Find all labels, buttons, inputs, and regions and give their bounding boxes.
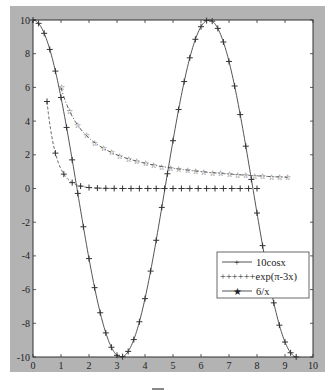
star-marker-icon: ☆ — [74, 121, 81, 130]
chart-svg: ☆☆☆☆☆☆☆☆☆☆☆☆☆☆☆☆☆☆☆☆☆☆☆☆☆☆☆☆ 01234567891… — [0, 0, 333, 390]
star-marker-icon: ☆ — [100, 144, 107, 153]
legend-plus-marker-icon: + — [234, 257, 240, 268]
x-tick-label: 5 — [171, 360, 176, 371]
x-tick-label: 9 — [283, 360, 288, 371]
star-marker-icon: ☆ — [125, 155, 132, 164]
legend-star-marker-icon: ★ — [233, 286, 242, 297]
star-marker-icon: ☆ — [158, 163, 165, 172]
x-tick-label: 2 — [87, 360, 92, 371]
star-marker-icon: ☆ — [251, 172, 258, 181]
y-tick-label: -2 — [22, 217, 30, 228]
star-marker-icon: ☆ — [242, 171, 249, 180]
star-marker-icon: ☆ — [167, 164, 174, 173]
star-marker-icon: ☆ — [142, 159, 149, 168]
x-tick-label: 7 — [227, 360, 232, 371]
y-tick-label: 4 — [25, 116, 30, 127]
star-marker-icon: ☆ — [58, 83, 65, 92]
star-marker-icon: ☆ — [66, 107, 73, 116]
star-marker-icon: ☆ — [234, 171, 241, 180]
x-tick-label: 3 — [115, 360, 120, 371]
legend: + 10cosx ++++++exp(π-3x) ★ 6/x — [217, 252, 309, 298]
y-tick-label: -6 — [22, 284, 30, 295]
x-tick-label: 6 — [199, 360, 204, 371]
y-tick-label: -10 — [17, 352, 30, 363]
x-tick-label: 1 — [59, 360, 64, 371]
y-tick-label: -4 — [22, 250, 30, 261]
star-marker-icon: ☆ — [226, 170, 233, 179]
star-marker-icon: ☆ — [284, 173, 291, 182]
legend-label-6x: 6/x — [256, 286, 270, 297]
figure: ☆☆☆☆☆☆☆☆☆☆☆☆☆☆☆☆☆☆☆☆☆☆☆☆☆☆☆☆ 01234567891… — [0, 0, 333, 390]
star-marker-icon: ☆ — [116, 152, 123, 161]
star-marker-icon: ☆ — [276, 173, 283, 182]
star-marker-icon: ☆ — [192, 167, 199, 176]
y-tick-label: 6 — [25, 82, 30, 93]
y-tick-label: 8 — [25, 48, 30, 59]
star-marker-icon: ☆ — [108, 148, 115, 157]
star-marker-icon: ☆ — [200, 168, 207, 177]
x-tick-label: 4 — [143, 360, 148, 371]
star-marker-icon: ☆ — [259, 172, 266, 181]
star-marker-icon: ☆ — [133, 157, 140, 166]
star-marker-icon: ☆ — [217, 169, 224, 178]
x-tick-label: 10 — [308, 360, 318, 371]
y-tick-label: 10 — [20, 15, 30, 26]
y-tick-label: -8 — [22, 318, 30, 329]
star-marker-icon: ☆ — [83, 131, 90, 140]
star-marker-icon: ☆ — [268, 173, 275, 182]
legend-label-exp: ++++++exp(π-3x) — [220, 271, 297, 283]
y-tick-label: 2 — [25, 149, 30, 160]
star-marker-icon: ☆ — [175, 165, 182, 174]
y-tick-label: 0 — [25, 183, 30, 194]
star-marker-icon: ☆ — [209, 169, 216, 178]
star-marker-icon: ☆ — [184, 166, 191, 175]
x-tick-label: 8 — [255, 360, 260, 371]
star-marker-icon: ☆ — [91, 139, 98, 148]
star-marker-icon: ☆ — [150, 161, 157, 170]
x-tick-label: 0 — [31, 360, 36, 371]
legend-label-10cosx: 10cosx — [256, 257, 286, 268]
